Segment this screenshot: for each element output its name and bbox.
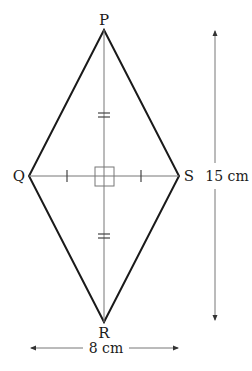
rhombus-diagram: P Q S R 15 cm 8 cm [0,0,252,371]
vertex-label-q: Q [13,167,25,185]
horizontal-dimension-label: 8 cm [89,340,123,356]
vertex-label-s: S [184,167,194,185]
vertex-label-p: P [99,11,109,29]
vertical-dimension-label: 15 cm [205,168,248,184]
